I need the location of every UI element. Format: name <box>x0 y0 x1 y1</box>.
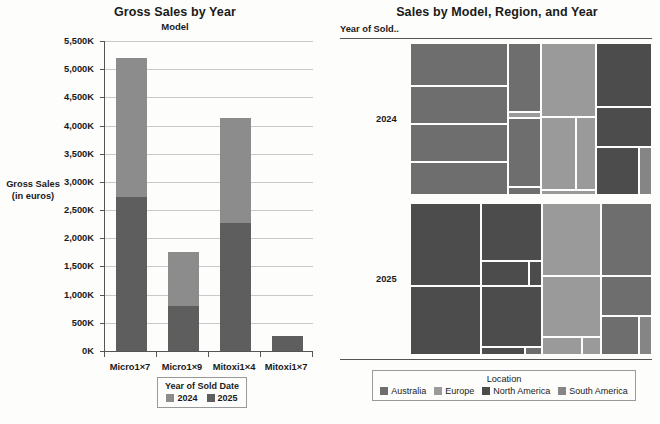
location-legend-label: South America <box>569 386 628 396</box>
bar-chart-plot-area <box>104 41 313 352</box>
treemap-cell[interactable] <box>508 187 541 195</box>
treemap-cell[interactable] <box>529 261 542 286</box>
location-legend-item[interactable]: Australia <box>380 386 426 396</box>
y-axis-tick <box>100 238 105 239</box>
treemap-bottom-rule <box>340 359 652 360</box>
x-axis-tick <box>208 352 209 357</box>
y-axis-tick-label: 3,000K <box>64 177 94 187</box>
treemap-cell[interactable] <box>639 147 652 195</box>
y-axis-tick <box>100 182 105 183</box>
y-axis-tick <box>100 210 105 211</box>
legend-swatch-icon <box>380 387 388 395</box>
bar-segment-2024[interactable] <box>116 58 147 197</box>
y-axis-tick-label: 4,500K <box>64 92 94 102</box>
bar-segment-2024[interactable] <box>168 252 199 307</box>
treemap-row-label-2025: 2025 <box>376 274 397 284</box>
year-legend-item[interactable]: 2024 <box>166 393 197 403</box>
location-legend-label: Australia <box>391 386 426 396</box>
y-axis-tick <box>100 266 105 267</box>
treemap-cell[interactable] <box>596 107 652 147</box>
treemap-cell[interactable] <box>601 203 652 276</box>
bar-segment-2025[interactable] <box>116 197 147 351</box>
y-axis-tick-label: 1,000K <box>64 290 94 300</box>
gridline <box>105 41 313 42</box>
bar-segment-2025[interactable] <box>272 336 303 351</box>
y-axis-tick-label: 4,000K <box>64 121 94 131</box>
treemap-cell[interactable] <box>541 190 597 195</box>
bar[interactable] <box>116 58 147 351</box>
y-axis-tick <box>100 126 105 127</box>
year-legend[interactable]: Year of Sold Date 20242025 <box>157 377 247 408</box>
location-legend-label: Europe <box>445 386 474 396</box>
bar-chart-panel: Gross Sales by Year Model Gross Sales (i… <box>0 0 332 424</box>
y-axis-tick-label: 2,500K <box>64 205 94 215</box>
bar-segment-2024[interactable] <box>220 118 251 222</box>
y-axis-tick <box>100 97 105 98</box>
y-axis-tick-label: 1,500K <box>64 261 94 271</box>
y-axis-tick-label: 5,000K <box>64 64 94 74</box>
treemap-cell[interactable] <box>481 347 525 355</box>
treemap-cell[interactable] <box>525 347 542 355</box>
treemap-cell[interactable] <box>541 43 597 117</box>
x-axis-tick <box>260 352 261 357</box>
bar[interactable] <box>272 336 303 351</box>
treemap-top-rule <box>340 38 652 39</box>
location-legend-items: AustraliaEuropeNorth AmericaSouth Americ… <box>379 386 629 396</box>
treemap-cell[interactable] <box>481 286 542 347</box>
treemap-cell[interactable] <box>576 117 597 189</box>
treemap-cell[interactable] <box>542 337 582 355</box>
treemap-cell[interactable] <box>410 124 508 163</box>
x-axis-tick <box>156 352 157 357</box>
y-axis-labels: 0K500K1,000K1,500K2,000K2,500K3,000K3,50… <box>0 0 104 424</box>
treemap-panel-2025[interactable] <box>410 203 652 355</box>
y-axis-tick <box>100 295 105 296</box>
y-axis-tick-label: 0K <box>82 346 94 356</box>
treemap-cell[interactable] <box>410 86 508 123</box>
treemap-cell[interactable] <box>542 276 601 337</box>
x-axis-tick-label: Mitoxi1×7 <box>265 362 308 372</box>
bar[interactable] <box>168 252 199 351</box>
location-legend-title: Location <box>379 374 629 384</box>
treemap-cell[interactable] <box>596 43 652 107</box>
treemap-cell[interactable] <box>601 276 652 316</box>
treemap-cell[interactable] <box>481 203 542 261</box>
treemap-cell[interactable] <box>410 203 481 286</box>
bar-segment-2025[interactable] <box>168 306 199 351</box>
y-axis-tick <box>100 323 105 324</box>
year-legend-item[interactable]: 2025 <box>207 393 238 403</box>
treemap-panel-2024[interactable] <box>410 43 652 195</box>
location-legend-item[interactable]: Europe <box>434 386 474 396</box>
treemap-cell[interactable] <box>481 261 528 286</box>
location-legend-item[interactable]: South America <box>558 386 628 396</box>
location-legend[interactable]: Location AustraliaEuropeNorth AmericaSou… <box>372 370 636 401</box>
y-axis-tick-label: 2,000K <box>64 233 94 243</box>
x-axis-tick-label: Micro1×7 <box>110 362 151 372</box>
treemap-cell[interactable] <box>582 337 601 355</box>
treemap-row-header: Year of Sold.. <box>340 24 399 34</box>
treemap-cell[interactable] <box>410 43 508 86</box>
location-legend-label: North America <box>493 386 550 396</box>
y-axis-tick-label: 5,500K <box>64 36 94 46</box>
y-axis-tick <box>100 69 105 70</box>
year-legend-items: 20242025 <box>165 393 239 403</box>
treemap-cell[interactable] <box>542 203 601 276</box>
legend-swatch-icon <box>558 387 566 395</box>
treemap-cell[interactable] <box>541 117 576 189</box>
x-axis-tick <box>104 352 105 357</box>
y-axis-tick <box>100 154 105 155</box>
y-axis-tick-label: 500K <box>72 318 94 328</box>
treemap-cell[interactable] <box>410 286 481 355</box>
treemap-cell[interactable] <box>508 43 541 112</box>
treemap-cell[interactable] <box>601 316 639 355</box>
treemap-cell[interactable] <box>508 118 541 187</box>
location-legend-item[interactable]: North America <box>482 386 550 396</box>
treemap-cell[interactable] <box>596 147 638 195</box>
treemap-cell[interactable] <box>410 162 508 195</box>
bar-segment-2025[interactable] <box>220 223 251 352</box>
year-legend-label: 2024 <box>177 393 197 403</box>
treemap-cell[interactable] <box>639 316 652 355</box>
treemap-title: Sales by Model, Region, and Year <box>342 5 652 19</box>
bar[interactable] <box>220 118 251 351</box>
x-axis-tick-label: Mitoxi1×4 <box>213 362 256 372</box>
legend-swatch-icon <box>482 387 490 395</box>
